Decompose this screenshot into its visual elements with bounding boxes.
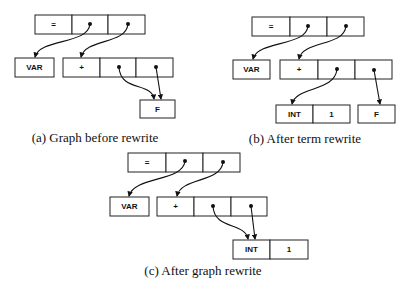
node-value: 1	[329, 110, 334, 119]
caption-b: (b) After term rewrite	[249, 131, 361, 146]
node-f: F	[358, 105, 395, 123]
figure-canvas: = VAR + F (a) Graph before rewrite	[0, 0, 408, 291]
panel-c: = VAR + INT 1 (c) After graph rewrite	[110, 153, 308, 278]
caption-c: (c) After graph rewrite	[144, 263, 262, 278]
node-label: +	[79, 63, 84, 72]
node-label: VAR	[26, 63, 43, 72]
node-label: INT	[288, 110, 301, 119]
caption-a: (a) Graph before rewrite	[32, 130, 159, 145]
node-label: =	[269, 22, 274, 31]
node-label: =	[145, 158, 150, 167]
node-int-1: INT 1	[233, 240, 308, 259]
graph-rewrite-figure: = VAR + F (a) Graph before rewrite	[0, 0, 408, 291]
node-value: 1	[287, 245, 292, 254]
node-label: VAR	[121, 202, 138, 211]
node-label: VAR	[243, 65, 260, 74]
node-label: F	[374, 110, 379, 119]
node-f: F	[140, 100, 175, 118]
panel-b: = VAR + INT 1 F (b) Afte	[233, 17, 395, 146]
node-label: +	[297, 65, 302, 74]
panel-a: = VAR + F (a) Graph before rewrite	[15, 15, 175, 145]
node-label: F	[155, 105, 160, 114]
node-label: =	[51, 20, 56, 29]
node-plus: +	[157, 197, 267, 216]
node-label: +	[173, 202, 178, 211]
node-label: INT	[245, 245, 258, 254]
node-int-1: INT 1	[276, 105, 350, 123]
node-var: VAR	[110, 197, 149, 216]
node-var: VAR	[15, 58, 54, 77]
node-var: VAR	[233, 60, 270, 79]
